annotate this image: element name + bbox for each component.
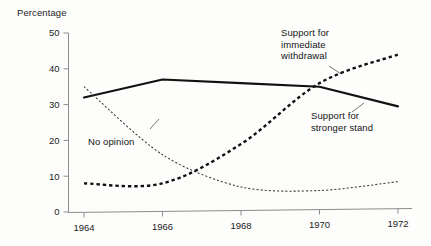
x-tick-marks — [84, 209, 398, 218]
y-tick-label: 30 — [49, 99, 60, 110]
annotation-support-for-stronger-stand: Support for stronger stand — [311, 110, 373, 133]
x-tick-label: 1964 — [73, 222, 94, 233]
annotation-no-opinion: No opinion — [88, 136, 134, 148]
x-axis: 19641966196819701972 — [69, 209, 413, 233]
y-tick-marks — [64, 33, 69, 212]
x-tick-label: 1970 — [309, 219, 330, 230]
x-tick-label: 1968 — [230, 220, 251, 231]
y-tick-label-group: 01020304050 — [49, 27, 60, 217]
y-tick-label: 20 — [49, 135, 60, 146]
x-tick-label-group: 19641966196819701972 — [73, 218, 408, 233]
y-tick-label: 10 — [49, 171, 60, 182]
series-line-support-for-stronger-stand — [84, 80, 398, 107]
chart-container: Percentage 01020304050 19641966196819701… — [0, 0, 431, 246]
y-tick-label: 0 — [54, 206, 59, 217]
x-tick-label: 1966 — [152, 221, 173, 232]
y-tick-label: 40 — [49, 63, 60, 74]
annotation-support-for-immediate-withdrawal: Support for immediate withdrawal — [281, 27, 329, 62]
x-axis-line — [69, 209, 413, 213]
x-tick-label: 1972 — [387, 218, 408, 229]
leader-line-immediate-withdrawal — [329, 66, 341, 74]
y-axis: 01020304050 — [49, 27, 69, 217]
y-tick-label: 50 — [49, 27, 60, 38]
leader-line-no-opinion — [150, 119, 159, 129]
